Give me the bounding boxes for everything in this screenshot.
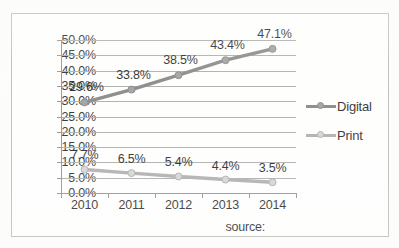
- legend-label: Print: [337, 129, 363, 142]
- data-point-marker: [81, 166, 88, 173]
- x-axis-tick: [249, 193, 250, 198]
- x-axis-line: [61, 193, 296, 194]
- legend-item-print[interactable]: Print: [306, 127, 363, 143]
- x-axis-tick-label: 2010: [59, 199, 111, 212]
- x-axis-tick-label: 2013: [200, 199, 252, 212]
- legend-swatch-icon: [306, 129, 336, 141]
- x-axis-tick: [108, 193, 109, 198]
- data-point-marker: [128, 170, 135, 177]
- data-point-label: 3.5%: [249, 162, 297, 175]
- data-point-marker: [269, 179, 276, 186]
- legend-swatch-icon: [306, 100, 336, 112]
- data-point-marker: [128, 86, 135, 93]
- data-point-marker: [222, 176, 229, 183]
- data-point-label: 33.8%: [110, 69, 158, 82]
- data-point-marker: [222, 57, 229, 64]
- legend-label: Digital: [337, 100, 372, 113]
- data-point-label: 38.5%: [157, 54, 205, 67]
- x-axis-tick: [155, 193, 156, 198]
- x-axis-tick-label: 2014: [247, 199, 299, 212]
- data-point-marker: [175, 72, 182, 79]
- data-point-label: 6.5%: [108, 153, 156, 166]
- data-point-label: 47.1%: [251, 28, 299, 41]
- data-point-marker: [81, 99, 88, 106]
- legend-item-digital[interactable]: Digital: [306, 98, 372, 114]
- x-axis-tick: [296, 193, 297, 198]
- x-axis-tick-label: 2011: [106, 199, 158, 212]
- data-point-label: 5.4%: [155, 156, 203, 169]
- data-point-label: 29.6%: [63, 81, 111, 94]
- x-axis-tick: [202, 193, 203, 198]
- x-axis-tick: [61, 193, 62, 198]
- chart-figure: 0.0%5.0%10.0%15.0%20.0%25.0%30.0%35.0%40…: [0, 0, 399, 248]
- data-point-label: 43.4%: [204, 39, 252, 52]
- data-point-marker: [269, 45, 276, 52]
- x-axis-tick-label: 2012: [153, 199, 205, 212]
- source-note: source:: [150, 221, 265, 234]
- data-point-label: 4.4%: [202, 160, 250, 173]
- data-point-marker: [175, 173, 182, 180]
- data-point-label: 7.7%: [61, 149, 109, 162]
